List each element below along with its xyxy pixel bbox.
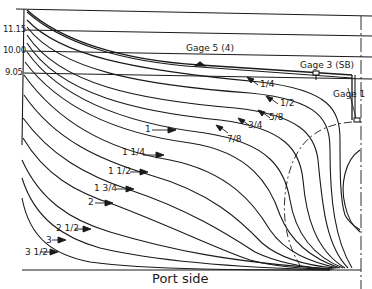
station-label-1-2: 1/2 — [280, 99, 294, 108]
station-label-1-4: 1/4 — [260, 80, 274, 89]
station-label-1-1-4: 1 1/4 — [122, 148, 145, 157]
station-label-2: 2 — [88, 198, 94, 207]
waterline-label-10-00: 10.00 — [3, 46, 26, 55]
station-label-1-3-4: 1 3/4 — [94, 184, 117, 193]
waterline-label-9-05: 9.05 — [5, 68, 23, 77]
gage-1-label: Gage 1 — [333, 90, 365, 99]
station-label-1: 1 — [145, 125, 151, 134]
station-label-7-8: 7/8 — [227, 135, 241, 144]
body-plan-diagram: 11.15 10.00 9.05 Gage 5 (4) Gage 3 (SB) … — [0, 0, 372, 289]
station-label-1-1-2: 1 1/2 — [108, 167, 131, 176]
gage-5-label: Gage 5 (4) — [186, 44, 234, 53]
gage-3-label: Gage 3 (SB) — [300, 61, 354, 70]
station-label-2-1-2: 2 1/2 — [56, 224, 79, 233]
waterline-label-11-15: 11.15 — [3, 25, 26, 34]
station-label-3: 3 — [46, 236, 52, 245]
port-side-title: Port side — [152, 272, 209, 285]
station-label-5-8: 5/8 — [269, 113, 283, 122]
station-label-3-4: 3/4 — [248, 121, 262, 130]
station-label-3-1-2: 3 1/2 — [25, 248, 48, 257]
